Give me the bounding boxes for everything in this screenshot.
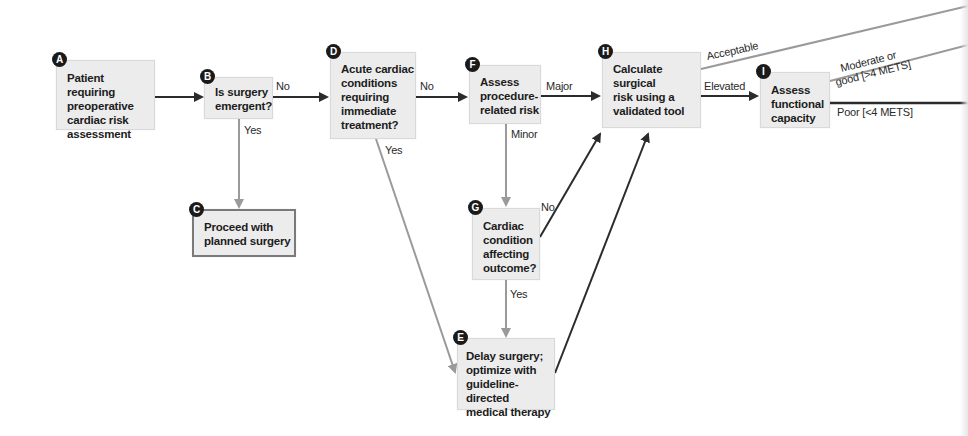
- badge-f: F: [465, 57, 480, 72]
- arrow-d-to-e: [376, 139, 455, 372]
- node-c-text: Proceed with planned surgery: [204, 220, 290, 248]
- badge-i: I: [756, 64, 771, 79]
- page-edge-shadow: [960, 0, 968, 436]
- badge-a: A: [52, 52, 67, 67]
- arrow-g-to-h: [540, 134, 600, 237]
- label-f-minor: Minor: [511, 128, 538, 140]
- flowchart: A Patient requiring preoperative cardiac…: [0, 0, 968, 436]
- node-a-text: Patient requiring preoperative cardiac r…: [67, 71, 154, 141]
- label-g-no: No: [541, 201, 555, 213]
- label-h-elevated: Elevated: [704, 80, 745, 92]
- label-d-yes: Yes: [385, 144, 402, 156]
- label-d-no: No: [420, 80, 434, 92]
- node-f-assess-procedure-risk: F Assess procedure- related risk: [469, 65, 541, 124]
- node-b-is-surgery-emergent: B Is surgery emergent?: [204, 77, 273, 119]
- badge-c: C: [189, 202, 204, 217]
- badge-g: G: [468, 200, 483, 215]
- node-i-assess-functional-capacity: I Assess functional capacity: [760, 72, 830, 128]
- badge-d: D: [326, 44, 341, 59]
- label-f-major: Major: [546, 80, 573, 92]
- node-e-text: Delay surgery; optimize with guideline-d…: [466, 349, 554, 419]
- badge-h: H: [598, 44, 613, 59]
- label-i-poor: Poor [<4 METS]: [837, 106, 913, 118]
- node-g-text: Cardiac condition affecting outcome?: [483, 219, 536, 275]
- arrow-e-to-h: [555, 134, 648, 373]
- node-h-calculate-surgical-risk: H Calculate surgical risk using a valida…: [602, 52, 701, 128]
- node-e-delay-surgery: E Delay surgery; optimize with guideline…: [457, 338, 555, 410]
- node-h-text: Calculate surgical risk using a validate…: [613, 62, 684, 118]
- label-b-no: No: [276, 80, 290, 92]
- node-a-patient-requiring-assessment: A Patient requiring preoperative cardiac…: [56, 60, 155, 130]
- node-d-acute-cardiac-conditions: D Acute cardiac conditions requiring imm…: [330, 52, 416, 139]
- node-i-text: Assess functional capacity: [771, 83, 824, 125]
- node-g-cardiac-condition-affecting-outcome: G Cardiac condition affecting outcome?: [472, 208, 540, 280]
- label-b-yes: Yes: [244, 124, 261, 136]
- node-f-text: Assess procedure- related risk: [480, 75, 539, 117]
- badge-e: E: [453, 330, 468, 345]
- label-g-yes: Yes: [510, 288, 527, 300]
- arrow-h-acceptable: [701, 6, 968, 69]
- node-d-text: Acute cardiac conditions requiring immed…: [341, 62, 414, 132]
- node-b-text: Is surgery emergent?: [215, 85, 272, 113]
- node-c-proceed-with-surgery: C Proceed with planned surgery: [192, 209, 296, 257]
- badge-b: B: [200, 69, 215, 84]
